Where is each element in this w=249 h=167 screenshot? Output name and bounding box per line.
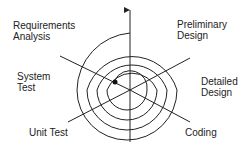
- spoke-systemtest-high: [60, 56, 130, 90]
- spiral-curve: [77, 33, 177, 140]
- label-preliminary-design: Preliminary Design: [177, 19, 227, 41]
- label-detailed-design: Detailed Design: [201, 76, 238, 98]
- label-system-test: System Test: [17, 71, 50, 93]
- arrow-head-icon: [124, 7, 130, 13]
- spiral-start-dot: [113, 80, 118, 85]
- label-unit-test: Unit Test: [29, 127, 68, 138]
- label-requirements-analysis: Requirements Analysis: [13, 20, 75, 42]
- label-coding: Coding: [185, 127, 217, 138]
